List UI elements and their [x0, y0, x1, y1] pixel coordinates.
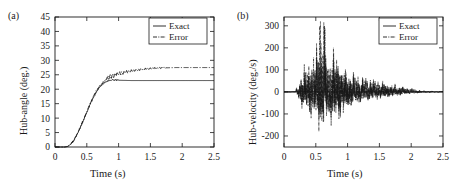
svg-text:20: 20: [41, 85, 51, 95]
svg-text:1: 1: [345, 152, 350, 162]
svg-text:1.5: 1.5: [144, 152, 156, 162]
svg-text:200: 200: [265, 43, 280, 53]
svg-text:0: 0: [274, 87, 279, 97]
figure-container: (a) Hub-angle (deg.) Time (s) 0510152025…: [0, 0, 463, 190]
svg-text:15: 15: [41, 99, 51, 109]
panel-a-plot: 05101520253035404500.511.522.5ExactError: [0, 0, 231, 190]
svg-text:40: 40: [41, 27, 51, 37]
svg-text:Exact: Exact: [399, 21, 420, 31]
svg-text:-100: -100: [262, 109, 280, 119]
svg-text:0.5: 0.5: [310, 152, 322, 162]
svg-text:5: 5: [45, 128, 50, 138]
svg-text:2: 2: [180, 152, 185, 162]
svg-text:0: 0: [45, 142, 50, 152]
svg-text:2.5: 2.5: [437, 152, 449, 162]
svg-text:35: 35: [41, 41, 51, 51]
panel-b-plot: -200-100010020030000.511.522.5ExactError: [231, 0, 462, 190]
svg-text:2: 2: [409, 152, 414, 162]
panel-a: (a) Hub-angle (deg.) Time (s) 0510152025…: [0, 0, 231, 190]
svg-text:2.5: 2.5: [208, 152, 220, 162]
svg-text:-200: -200: [262, 131, 280, 141]
svg-text:10: 10: [41, 114, 51, 124]
panel-b: (b) Hub-velocity (deg./s) Time (s) -200-…: [231, 0, 462, 190]
svg-text:0: 0: [53, 152, 58, 162]
svg-text:1.5: 1.5: [373, 152, 385, 162]
svg-text:45: 45: [41, 12, 51, 22]
svg-text:Exact: Exact: [169, 21, 190, 31]
svg-text:1: 1: [116, 152, 121, 162]
svg-text:30: 30: [41, 56, 51, 66]
svg-text:Error: Error: [169, 32, 188, 42]
svg-text:0: 0: [282, 152, 287, 162]
svg-text:300: 300: [265, 21, 280, 31]
svg-text:100: 100: [265, 65, 280, 75]
svg-text:0.5: 0.5: [81, 152, 93, 162]
svg-text:25: 25: [41, 70, 51, 80]
svg-text:Error: Error: [399, 32, 418, 42]
